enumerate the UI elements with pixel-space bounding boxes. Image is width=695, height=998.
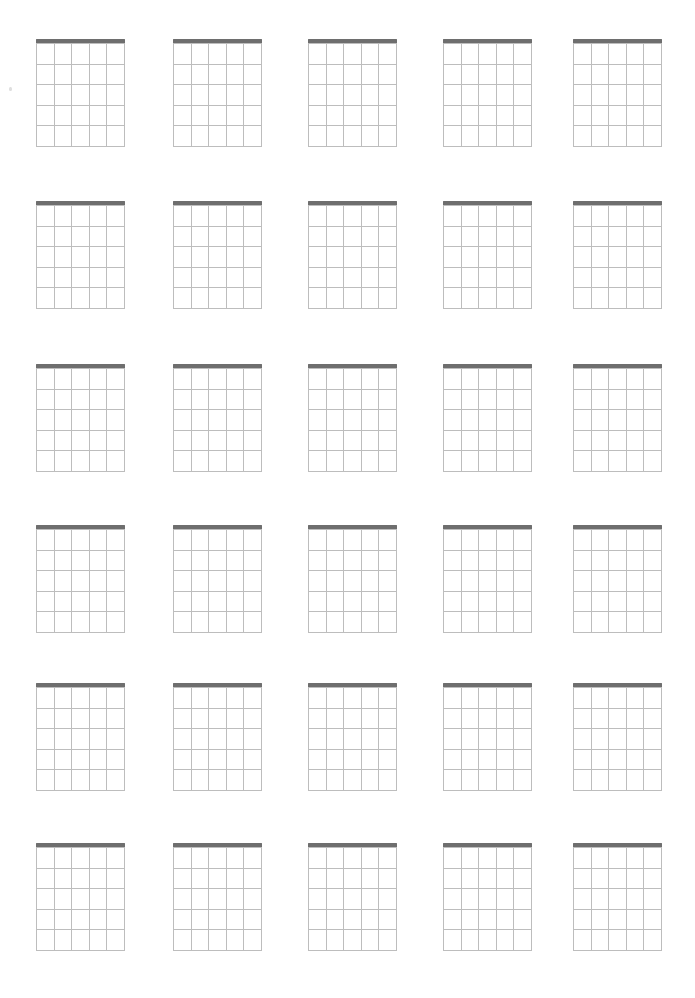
- string-line: [661, 529, 662, 632]
- chord-diagram[interactable]: [36, 843, 125, 950]
- string-line: [261, 847, 262, 950]
- chord-diagram[interactable]: [36, 39, 125, 146]
- fret-line: [36, 125, 125, 126]
- string-line: [531, 368, 532, 471]
- fret-line: [173, 105, 262, 106]
- fret-line: [36, 430, 125, 431]
- string-line: [54, 529, 55, 632]
- fret-line: [173, 632, 262, 633]
- string-line: [443, 687, 444, 790]
- fret-line: [36, 611, 125, 612]
- fret-line: [443, 749, 532, 750]
- chord-diagram[interactable]: [173, 843, 262, 950]
- chord-diagram-fretboard: [36, 205, 125, 308]
- chord-diagram[interactable]: [308, 364, 397, 471]
- string-line: [71, 687, 72, 790]
- string-line: [531, 847, 532, 950]
- string-line: [378, 529, 379, 632]
- string-line: [573, 529, 574, 632]
- string-line: [243, 847, 244, 950]
- string-line: [378, 687, 379, 790]
- string-line: [124, 847, 125, 950]
- chord-diagram[interactable]: [573, 201, 662, 308]
- string-line: [36, 847, 37, 950]
- chord-diagram[interactable]: [443, 364, 532, 471]
- chord-diagram[interactable]: [573, 39, 662, 146]
- fret-line: [573, 146, 662, 147]
- string-line: [626, 205, 627, 308]
- chord-diagram[interactable]: [573, 843, 662, 950]
- string-line: [643, 205, 644, 308]
- string-line: [191, 368, 192, 471]
- string-line: [124, 368, 125, 471]
- fret-line: [173, 591, 262, 592]
- chord-diagram[interactable]: [573, 683, 662, 790]
- fret-line: [443, 105, 532, 106]
- chord-diagram[interactable]: [173, 364, 262, 471]
- chord-diagram-fretboard: [443, 529, 532, 632]
- string-line: [326, 529, 327, 632]
- chord-diagram[interactable]: [173, 525, 262, 632]
- chord-diagram[interactable]: [443, 525, 532, 632]
- chord-diagram[interactable]: [36, 683, 125, 790]
- fret-line: [308, 205, 397, 206]
- chord-diagram-fretboard: [308, 687, 397, 790]
- chord-diagram[interactable]: [308, 525, 397, 632]
- fret-line: [173, 790, 262, 791]
- chord-diagram[interactable]: [36, 525, 125, 632]
- fret-line: [308, 909, 397, 910]
- string-line: [626, 687, 627, 790]
- chord-diagram[interactable]: [173, 39, 262, 146]
- chord-diagram-fretboard: [173, 43, 262, 146]
- chord-diagram-fretboard: [443, 205, 532, 308]
- chord-diagram[interactable]: [443, 843, 532, 950]
- string-line: [478, 368, 479, 471]
- fret-line: [36, 868, 125, 869]
- chord-diagram[interactable]: [173, 683, 262, 790]
- chord-diagram-fretboard: [443, 847, 532, 950]
- string-line: [608, 687, 609, 790]
- chord-diagram[interactable]: [36, 201, 125, 308]
- fret-line: [173, 868, 262, 869]
- string-line: [124, 687, 125, 790]
- fret-line: [308, 728, 397, 729]
- fret-line: [443, 868, 532, 869]
- string-line: [261, 205, 262, 308]
- chord-diagram[interactable]: [308, 39, 397, 146]
- fret-line: [173, 146, 262, 147]
- fret-line: [573, 728, 662, 729]
- string-line: [396, 43, 397, 146]
- fret-line: [443, 205, 532, 206]
- string-line: [531, 205, 532, 308]
- chord-diagram-fretboard: [573, 847, 662, 950]
- chord-diagram[interactable]: [36, 364, 125, 471]
- chord-diagram[interactable]: [573, 525, 662, 632]
- chord-diagram[interactable]: [308, 683, 397, 790]
- string-line: [308, 43, 309, 146]
- fret-line: [443, 308, 532, 309]
- string-line: [643, 368, 644, 471]
- string-line: [513, 43, 514, 146]
- chord-diagram[interactable]: [443, 683, 532, 790]
- fret-line: [443, 632, 532, 633]
- fret-line: [573, 909, 662, 910]
- fret-line: [173, 409, 262, 410]
- chord-diagram[interactable]: [573, 364, 662, 471]
- fret-line: [443, 570, 532, 571]
- fret-line: [173, 64, 262, 65]
- string-line: [461, 687, 462, 790]
- string-line: [626, 847, 627, 950]
- chord-diagram[interactable]: [308, 843, 397, 950]
- fret-line: [443, 226, 532, 227]
- string-line: [326, 687, 327, 790]
- chord-diagram[interactable]: [308, 201, 397, 308]
- chord-diagram[interactable]: [173, 201, 262, 308]
- chord-diagram-fretboard: [173, 368, 262, 471]
- string-line: [243, 43, 244, 146]
- chord-diagram[interactable]: [443, 201, 532, 308]
- fret-line: [443, 929, 532, 930]
- string-line: [361, 368, 362, 471]
- chord-diagram[interactable]: [443, 39, 532, 146]
- string-line: [36, 687, 37, 790]
- fret-line: [308, 708, 397, 709]
